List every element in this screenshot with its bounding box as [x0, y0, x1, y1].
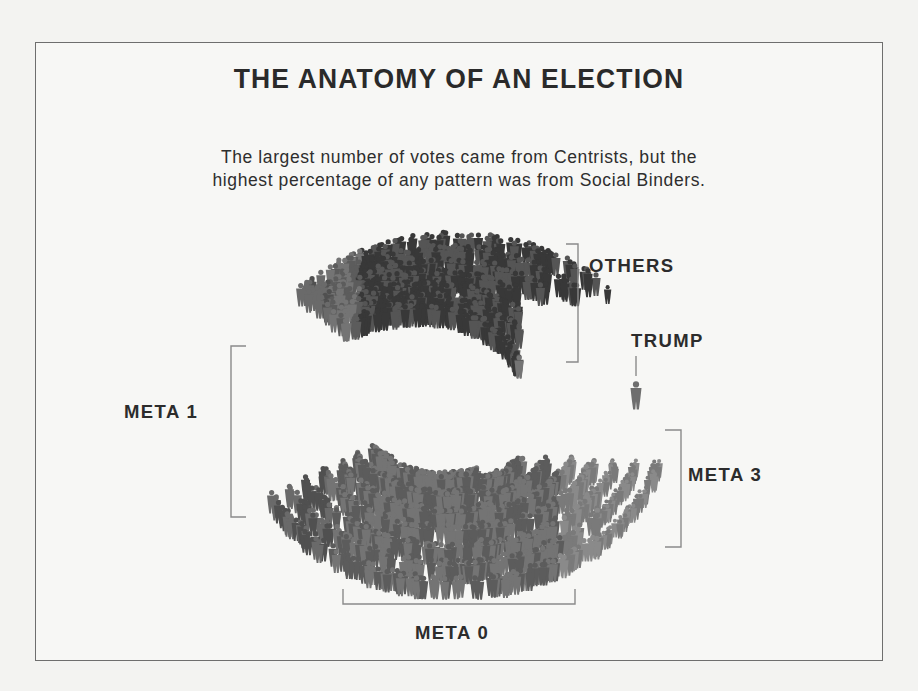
label-meta0: META 0 — [415, 622, 489, 644]
label-trump: TRUMP — [631, 330, 704, 352]
bracket-meta3 — [665, 430, 681, 547]
bracket-meta1 — [231, 346, 246, 517]
label-others: OTHERS — [589, 255, 675, 277]
label-meta3: META 3 — [688, 464, 762, 486]
crowd-figure-diagram — [0, 0, 918, 691]
voter-figures — [267, 230, 663, 600]
label-meta1: META 1 — [124, 401, 198, 423]
